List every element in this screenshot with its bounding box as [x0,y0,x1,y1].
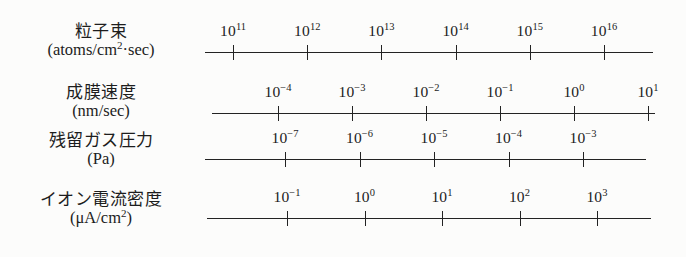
tick-mantissa: 10 [273,188,289,205]
tick-exponent: 11 [236,21,246,32]
unit-prefix: (μA/cm [70,208,121,227]
tick-mantissa: 10 [586,188,602,205]
axis-tick-label: 1012 [294,22,320,40]
tick-mantissa: 10 [354,188,370,205]
tick-mantissa: 10 [294,22,310,39]
tick-exponent: −7 [287,128,298,139]
row-label-deposition-rate: 成膜速度 (nm/sec) [0,83,202,121]
axis-tick [574,106,575,121]
tick-mantissa: 10 [368,22,384,39]
axis-tick [233,45,234,60]
tick-mantissa: 10 [346,129,362,146]
row-label-ion-current-density: イオン電流密度 (μA/cm2) [0,190,202,228]
axis-tick-label: 10−4 [495,129,522,147]
tick-mantissa: 10 [420,129,436,146]
axis-line [207,218,651,219]
axis-tick-label: 10−1 [486,83,513,101]
tick-mantissa: 10 [509,188,525,205]
axis-tick-label: 1013 [368,22,394,40]
row-label-main: 残留ガス圧力 [0,131,202,150]
axis-tick [648,106,649,121]
tick-exponent: 16 [607,21,618,32]
log-scale-comparison-figure: 粒子束 (atoms/cm2·sec) 10111012101310141015… [0,0,686,257]
axis-line [205,52,653,53]
axis-tick-label: 10−7 [271,129,298,147]
tick-exponent: 2 [525,187,530,198]
unit-suffix: ) [127,208,133,227]
axis-tick [352,106,353,121]
tick-exponent: −3 [585,128,596,139]
axis-tick-label: 1015 [517,22,543,40]
axis-tick [500,106,501,121]
tick-exponent: 13 [384,21,395,32]
axis-tick-label: 101 [431,188,452,206]
axis-tick [442,211,443,226]
axis-tick [509,152,510,167]
axis-tick [360,152,361,167]
axis-tick-label: 1016 [591,22,617,40]
axis-tick [456,45,457,60]
row-label-residual-gas-pressure: 残留ガス圧力 (Pa) [0,131,202,169]
tick-mantissa: 10 [412,83,428,100]
axis-tick-label: 100 [354,188,375,206]
row-label-unit: (atoms/cm2·sec) [0,41,202,59]
axis-tick-label: 10−1 [273,188,300,206]
unit-suffix: ·sec) [123,40,155,59]
tick-exponent: −4 [511,128,522,139]
tick-exponent: 15 [533,21,544,32]
tick-exponent: 1 [653,82,658,93]
tick-mantissa: 10 [591,22,607,39]
tick-exponent: −6 [362,128,373,139]
tick-mantissa: 10 [431,188,447,205]
axis-line [205,159,646,160]
tick-exponent: 0 [579,82,584,93]
tick-mantissa: 10 [569,129,585,146]
axis-tick [287,211,288,226]
tick-exponent: 12 [310,21,321,32]
unit-prefix: (nm/sec) [72,101,130,120]
tick-mantissa: 10 [495,129,511,146]
axis-tick [278,106,279,121]
tick-mantissa: 10 [442,22,458,39]
axis-tick [365,211,366,226]
tick-mantissa: 10 [637,83,653,100]
tick-exponent: 14 [458,21,469,32]
tick-exponent: 0 [370,187,375,198]
tick-exponent: −2 [428,82,439,93]
row-label-unit: (nm/sec) [0,102,202,120]
row-label-unit: (Pa) [0,150,202,168]
tick-exponent: 3 [602,187,607,198]
tick-mantissa: 10 [563,83,579,100]
axis-tick [285,152,286,167]
axis-tick-label: 10−2 [412,83,439,101]
tick-exponent: −1 [502,82,513,93]
axis-tick [434,152,435,167]
row-label-main: 粒子束 [0,22,202,41]
axis-tick [520,211,521,226]
tick-mantissa: 10 [264,83,280,100]
tick-exponent: −1 [289,187,300,198]
axis-tick-label: 101 [637,83,658,101]
axis-tick-label: 10−4 [264,83,291,101]
tick-mantissa: 10 [338,83,354,100]
row-label-particle-beam: 粒子束 (atoms/cm2·sec) [0,22,202,60]
tick-exponent: 1 [447,187,452,198]
tick-exponent: −3 [354,82,365,93]
axis-tick-label: 10−3 [569,129,596,147]
axis-tick-label: 10−6 [346,129,373,147]
tick-mantissa: 10 [220,22,236,39]
axis-tick-label: 10−5 [420,129,447,147]
tick-mantissa: 10 [517,22,533,39]
row-label-unit: (μA/cm2) [0,209,202,227]
tick-exponent: −4 [280,82,291,93]
axis-tick-label: 1014 [442,22,468,40]
axis-tick [604,45,605,60]
unit-prefix: (Pa) [87,149,115,168]
row-label-main: イオン電流密度 [0,190,202,209]
axis-tick [307,45,308,60]
tick-mantissa: 10 [271,129,287,146]
axis-tick-label: 10−3 [338,83,365,101]
tick-mantissa: 10 [486,83,502,100]
axis-tick-label: 103 [586,188,607,206]
axis-tick [530,45,531,60]
